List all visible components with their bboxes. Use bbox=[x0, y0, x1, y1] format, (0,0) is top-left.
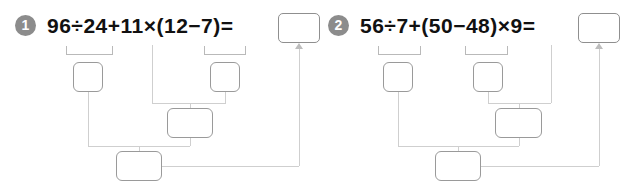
arrow-up-icon-2 bbox=[595, 43, 603, 49]
connector-2-operand-9-vertical bbox=[551, 45, 552, 103]
connector-2-multiply-down bbox=[519, 138, 520, 146]
connector-2-into-multiply bbox=[519, 103, 520, 108]
bracket-1-subtract bbox=[204, 46, 246, 55]
problem-number-marker-1: 1 bbox=[15, 15, 36, 36]
connector-2-answer-horizontal bbox=[481, 166, 599, 167]
connector-1-operand-11-vertical bbox=[152, 45, 153, 103]
connector-1-subtract-down bbox=[225, 92, 226, 103]
work-box-1-divide[interactable] bbox=[73, 62, 103, 92]
connector-1-answer-vertical bbox=[299, 49, 300, 166]
work-box-2-subtract[interactable] bbox=[473, 62, 503, 92]
problem-2: 2 56÷7+(50−48)×9= bbox=[320, 0, 637, 183]
work-box-1-multiply[interactable] bbox=[167, 108, 213, 138]
connector-1-into-multiply bbox=[190, 103, 191, 108]
connector-1-answer-horizontal bbox=[162, 166, 299, 167]
problem-expression-1: 96÷24+11×(12−7)= bbox=[47, 14, 234, 38]
arrow-up-icon-1 bbox=[295, 43, 303, 49]
work-box-2-divide[interactable] bbox=[383, 62, 413, 92]
problem-number-marker-2: 2 bbox=[328, 15, 349, 36]
problem-expression-2: 56÷7+(50−48)×9= bbox=[360, 14, 536, 38]
problem-1: 1 96÷24+11×(12−7)= bbox=[0, 0, 320, 183]
answer-box-1[interactable] bbox=[278, 13, 320, 43]
answer-box-2[interactable] bbox=[578, 13, 620, 43]
connector-2-divide-down bbox=[398, 92, 399, 146]
bracket-2-divide bbox=[378, 46, 421, 55]
bracket-2-subtract bbox=[465, 46, 508, 55]
connector-2-subtract-down bbox=[488, 92, 489, 103]
connector-1-into-add bbox=[139, 146, 140, 151]
bracket-1-divide bbox=[66, 46, 113, 55]
connector-2-answer-vertical bbox=[599, 49, 600, 166]
work-box-2-add[interactable] bbox=[435, 151, 481, 181]
connector-1-multiply-down bbox=[190, 138, 191, 146]
work-box-2-multiply[interactable] bbox=[495, 108, 542, 138]
connector-1-divide-down bbox=[88, 92, 89, 146]
connector-1-multiply-join-horizontal bbox=[152, 103, 226, 104]
work-box-1-subtract[interactable] bbox=[210, 62, 240, 92]
worksheet-canvas: 1 96÷24+11×(12−7)= bbox=[0, 0, 637, 183]
connector-2-into-add bbox=[458, 146, 459, 151]
work-box-1-add[interactable] bbox=[116, 151, 162, 181]
